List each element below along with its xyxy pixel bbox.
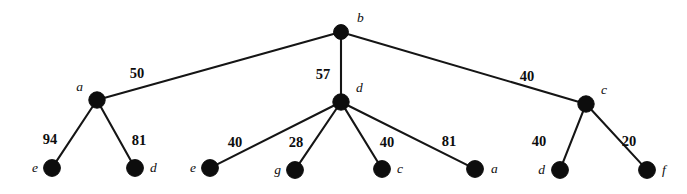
tree-node-dot [467, 161, 484, 178]
tree-node-label: d [356, 80, 363, 95]
tree-node-dot [202, 160, 219, 177]
tree-node-label: b [357, 10, 364, 25]
tree-node: d [538, 162, 568, 179]
tree-node: a [76, 79, 105, 108]
tree-node: c [578, 82, 607, 112]
tree-node-label: g [274, 162, 281, 177]
tree-node-dot [44, 160, 61, 177]
tree-node-dot [127, 160, 144, 177]
tree-node-label: a [76, 79, 83, 94]
edge-weight-label: 94 [43, 131, 58, 147]
tree-node: d [333, 80, 363, 110]
tree-node-label: d [538, 162, 545, 177]
tree-node: e [32, 160, 60, 177]
tree-node: a [467, 161, 498, 178]
tree-node-dot [334, 25, 349, 40]
weighted-tree-figure: badcedegcadf 5057409481402840814020 [0, 0, 687, 194]
tree-node-label: e [190, 160, 196, 175]
tree-edge [343, 106, 379, 165]
tree-edge [55, 104, 95, 164]
tree-edge [298, 106, 339, 166]
tree-node-label: c [601, 82, 607, 97]
tree-edge [562, 108, 585, 166]
edge-weight-label: 28 [289, 134, 304, 150]
edge-weight-label: 81 [132, 132, 147, 148]
tree-canvas: badcedegcadf 5057409481402840814020 [0, 0, 687, 194]
tree-node-dot [89, 92, 105, 108]
edge-weight-label: 40 [532, 133, 547, 149]
tree-edge [345, 33, 582, 103]
edge-weight-label: 40 [520, 68, 535, 84]
tree-node-label: e [32, 160, 38, 175]
tree-edge [99, 104, 133, 164]
tree-node: g [274, 162, 303, 179]
tree-node-label: f [662, 162, 668, 177]
tree-node-dot [287, 162, 304, 179]
tree-node-dot [374, 161, 391, 178]
tree-node-dot [333, 94, 349, 110]
edge-weight-label: 20 [622, 133, 637, 149]
tree-node-label: d [150, 160, 157, 175]
edge-weight-label: 50 [130, 65, 145, 81]
tree-node-label: a [491, 161, 498, 176]
tree-node-dot [578, 96, 594, 112]
tree-node: f [639, 162, 668, 179]
tree-node-dot [552, 162, 569, 179]
tree-node: c [374, 161, 403, 178]
tree-node-label: c [397, 161, 403, 176]
edge-weight-label: 81 [442, 133, 457, 149]
tree-node: e [190, 160, 218, 177]
tree-node-dot [639, 162, 656, 179]
tree-node: d [127, 160, 157, 177]
edge-weight-label: 57 [316, 66, 331, 82]
edge-weight-label: 40 [228, 134, 243, 150]
edge-weight-label: 40 [380, 134, 395, 150]
